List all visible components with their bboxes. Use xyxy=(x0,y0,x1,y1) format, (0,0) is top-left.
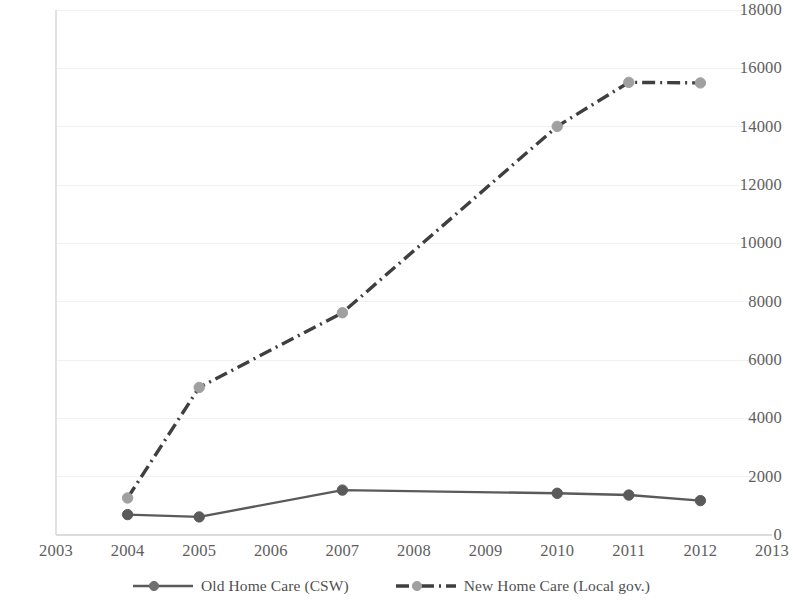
legend-label-0: Old Home Care (CSW) xyxy=(201,578,349,594)
y-tick-label-2000: 2000 xyxy=(730,468,782,485)
y-tick-label-14000: 14000 xyxy=(730,118,782,135)
legend-swatch-dash-dot-icon xyxy=(395,578,457,594)
data-point-s1-2011 xyxy=(624,77,634,87)
series-line-0 xyxy=(128,490,701,517)
y-tick-label-18000: 18000 xyxy=(730,2,782,19)
data-point-s1-2005 xyxy=(194,382,204,392)
x-tick-label-2006: 2006 xyxy=(236,543,306,560)
x-tick-label-2010: 2010 xyxy=(522,543,592,560)
data-point-s0-2007 xyxy=(337,485,347,495)
data-point-s1-2004 xyxy=(122,493,132,503)
x-tick-label-2011: 2011 xyxy=(594,543,664,560)
x-tick-label-2003: 2003 xyxy=(21,543,91,560)
y-tick-label-4000: 4000 xyxy=(730,410,782,427)
x-tick-label-2012: 2012 xyxy=(665,543,735,560)
data-point-s0-2011 xyxy=(624,490,634,500)
data-point-s1-2007 xyxy=(337,308,347,318)
y-tick-label-12000: 12000 xyxy=(730,177,782,194)
legend-entry-1[interactable]: New Home Care (Local gov.) xyxy=(395,578,650,594)
data-point-s0-2005 xyxy=(194,512,204,522)
data-point-s0-2012 xyxy=(695,495,705,505)
data-point-s0-2010 xyxy=(552,488,562,498)
x-tick-label-2004: 2004 xyxy=(93,543,163,560)
data-point-s1-2012 xyxy=(695,78,705,88)
y-tick-label-16000: 16000 xyxy=(730,60,782,77)
y-tick-label-10000: 10000 xyxy=(730,235,782,252)
x-tick-label-2007: 2007 xyxy=(307,543,377,560)
legend-swatch-solid-icon xyxy=(132,578,194,594)
legend-label-1: New Home Care (Local gov.) xyxy=(464,578,650,594)
series-lines-group xyxy=(128,82,701,517)
y-tick-label-6000: 6000 xyxy=(730,352,782,369)
x-tick-label-2005: 2005 xyxy=(164,543,234,560)
series-markers-group xyxy=(122,77,705,522)
gridlines-group xyxy=(56,10,772,535)
chart-legend: Old Home Care (CSW)New Home Care (Local … xyxy=(0,573,782,599)
y-tick-label-8000: 8000 xyxy=(730,293,782,310)
series-line-1 xyxy=(128,82,701,498)
data-point-s0-2004 xyxy=(122,509,132,519)
axis-lines-group xyxy=(56,10,772,535)
x-tick-label-2009: 2009 xyxy=(451,543,521,560)
x-tick-label-2013: 2013 xyxy=(737,543,793,560)
x-tick-label-2008: 2008 xyxy=(379,543,449,560)
legend-entry-0[interactable]: Old Home Care (CSW) xyxy=(132,578,349,594)
data-point-s1-2010 xyxy=(552,121,562,131)
